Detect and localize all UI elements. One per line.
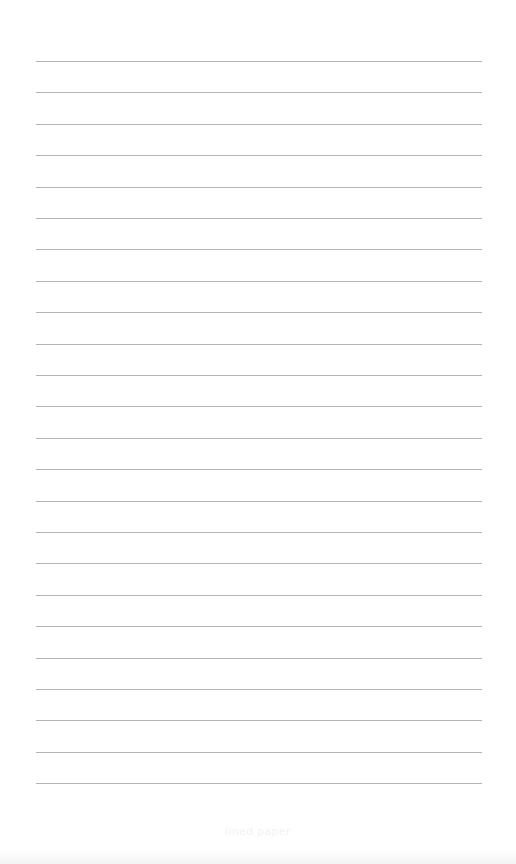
- bottom-edge-shading: [0, 850, 516, 864]
- ruled-line: [36, 375, 482, 376]
- ruled-line: [36, 595, 482, 596]
- ruled-line: [36, 501, 482, 502]
- lined-paper-page: lined paper: [0, 0, 516, 864]
- ruled-line: [36, 783, 482, 784]
- ruled-line: [36, 658, 482, 659]
- ruled-line: [36, 281, 482, 282]
- ruled-line: [36, 720, 482, 721]
- ruled-line: [36, 438, 482, 439]
- ruled-line: [36, 344, 482, 345]
- ruled-line: [36, 689, 482, 690]
- ruled-line: [36, 626, 482, 627]
- ruled-line: [36, 61, 482, 62]
- ruled-line: [36, 406, 482, 407]
- ruled-line: [36, 249, 482, 250]
- ruled-line: [36, 187, 482, 188]
- ruled-line: [36, 92, 482, 93]
- ruled-line: [36, 469, 482, 470]
- ruled-line: [36, 312, 482, 313]
- ruled-lines: [36, 0, 482, 864]
- ruled-line: [36, 155, 482, 156]
- ruled-line: [36, 532, 482, 533]
- ruled-line: [36, 563, 482, 564]
- ruled-line: [36, 218, 482, 219]
- footer-watermark: lined paper: [0, 825, 516, 837]
- ruled-line: [36, 752, 482, 753]
- ruled-line: [36, 124, 482, 125]
